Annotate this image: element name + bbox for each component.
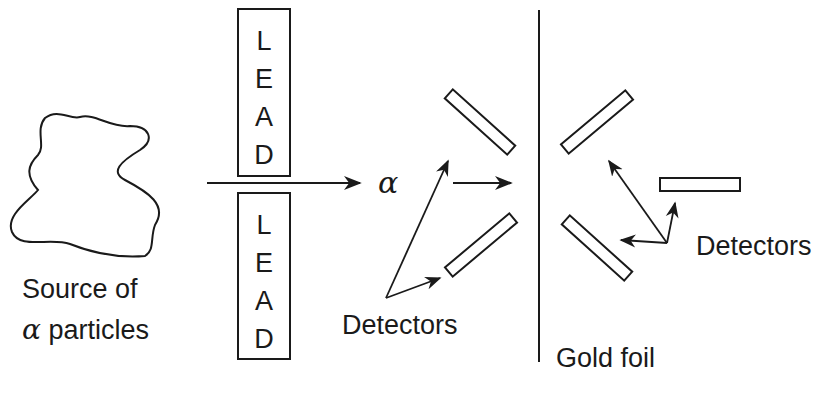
pointer-arrow-right-lower <box>621 240 667 243</box>
lead-bottom-letter: L <box>238 212 290 239</box>
detectors-left-label: Detectors <box>342 312 458 339</box>
detector-left-upper <box>445 89 515 154</box>
pointer-arrow-right-horizontal <box>667 203 675 243</box>
lead-bottom-letter: A <box>238 288 290 315</box>
lead-top-letter: A <box>238 104 290 131</box>
pointer-arrow-right-upper <box>609 161 667 243</box>
source-label-line1: Source of <box>22 276 138 303</box>
alpha-source-blob <box>11 114 159 257</box>
detector-right-upper <box>561 90 633 153</box>
lead-top-letter: L <box>238 28 290 55</box>
lead-bottom-letter: E <box>238 250 290 277</box>
detector-right-horizontal <box>660 178 740 191</box>
gold-foil-label: Gold foil <box>556 345 655 372</box>
lead-top-letter: E <box>238 66 290 93</box>
source-particles-text: particles <box>48 315 149 345</box>
source-alpha-symbol: α <box>22 313 41 346</box>
beam-alpha-label: α <box>378 168 398 198</box>
detector-right-lower <box>562 215 632 280</box>
detector-left-lower <box>445 213 517 276</box>
lead-bottom-letter: D <box>238 326 290 353</box>
source-label-line2: α particles <box>22 316 149 344</box>
lead-top-letter: D <box>238 142 290 169</box>
detectors-right-label: Detectors <box>696 233 812 260</box>
